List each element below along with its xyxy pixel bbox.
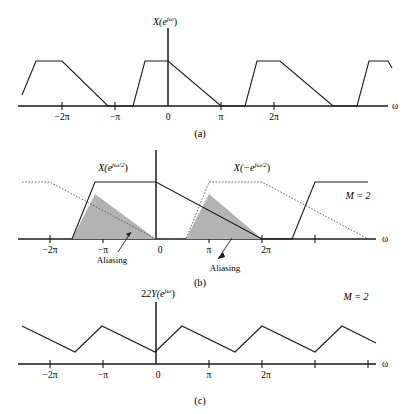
panel-b-caption: (b) <box>194 277 207 289</box>
panel-a-ticklabel-0: −2π <box>55 112 70 122</box>
panel-c-spectrum-trace <box>22 326 376 352</box>
panel-a-omega-label: ω <box>392 101 398 111</box>
panel-b-signal-label-1: X(ejω/2) <box>97 161 128 174</box>
panel-c-caption: (c) <box>194 395 206 407</box>
panel-a-ticklabel-2: 0 <box>166 112 171 122</box>
panel-b-ticklabel-1: −π <box>98 245 108 255</box>
panel-c-ticklabel-0: −2π <box>43 370 58 380</box>
panel-b-aliasing-leader-right <box>218 238 232 259</box>
panel-b: ω −2π −π 0 π 2π X(ejω/2) <box>18 150 388 273</box>
panel-b-m-label: M = 2 <box>344 190 370 201</box>
panel-a-ticklabel-4: 2π <box>269 112 279 122</box>
panel-c-ticklabel-2: 0 <box>156 370 161 380</box>
panel-b-ticklabel-4: 2π <box>261 245 271 255</box>
panel-b-aliasing-label-left: Aliasing <box>97 255 128 265</box>
panel-a-caption: (a) <box>194 128 206 140</box>
figure-container: X(ejω) ω −2π −π 0 π 2π (a) ω <box>0 0 409 414</box>
panel-a: X(ejω) ω −2π −π 0 π 2π <box>18 15 398 122</box>
spectrum-figure: X(ejω) ω −2π −π 0 π 2π (a) ω <box>0 0 409 414</box>
panel-b-ticklabel-0: −2π <box>43 245 58 255</box>
panel-b-ticklabel-2: 0 <box>158 245 163 255</box>
panel-c-omega-label: ω <box>382 359 388 369</box>
panel-b-signal-label-2: X(−ejω/2) <box>233 161 270 174</box>
panel-b-ticklabel-3: π <box>207 245 212 255</box>
panel-c-ticklabel-4: 2π <box>261 370 271 380</box>
panel-c-m-label: M = 2 <box>342 291 368 302</box>
panel-c-signal-label: 22Y(ejω) <box>141 287 175 300</box>
panel-b-omega-label: ω <box>382 234 388 244</box>
panel-b-aliasing-label-right: Aliasing <box>210 263 241 273</box>
panel-a-ticklabel-1: −π <box>110 112 120 122</box>
panel-a-signal-label: X(ejω) <box>152 15 177 28</box>
panel-c-ticklabel-3: π <box>207 370 212 380</box>
panel-a-ticklabel-3: π <box>219 112 224 122</box>
panel-a-spectrum-trace <box>22 61 392 106</box>
panel-c: 22Y(ejω) ω −2π −π 0 π 2π M = 2 <box>18 287 388 380</box>
panel-c-ticklabel-1: −π <box>98 370 108 380</box>
